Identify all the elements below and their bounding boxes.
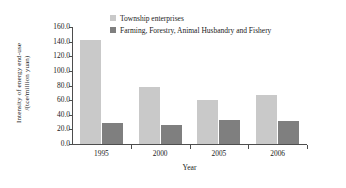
y-axis-tick-label: 0.0	[30, 140, 70, 148]
bar-2000-series-1	[161, 125, 182, 144]
y-axis-tick-label: 40.0	[30, 111, 70, 119]
bar-group-2005	[197, 27, 240, 144]
plot-area	[72, 27, 307, 145]
legend-item-1: Farming, Forestry, Animal Husbandry and …	[110, 25, 271, 35]
x-axis-tick-labels: 1995200020052006	[72, 149, 307, 161]
bar-2006-series-1	[278, 121, 299, 144]
bar-chart: Intensity of energy end-use /(tce/millio…	[0, 0, 346, 188]
x-axis-tick-label-2000: 2000	[138, 149, 182, 158]
bar-group-2000	[139, 27, 182, 144]
legend-swatch-icon	[110, 27, 116, 33]
y-axis-tick-mark	[69, 56, 72, 57]
x-axis-tick-label-1995: 1995	[79, 149, 123, 158]
bar-2000-series-0	[139, 87, 160, 144]
y-axis-tick-mark	[69, 144, 72, 145]
y-axis-tick-mark	[69, 71, 72, 72]
bar-2005-series-0	[197, 100, 218, 144]
y-axis-tick-mark	[69, 100, 72, 101]
bar-2006-series-0	[256, 95, 277, 144]
legend-label: Farming, Forestry, Animal Husbandry and …	[120, 26, 271, 35]
y-axis-tick-mark	[69, 129, 72, 130]
y-axis-tick-label: 140.0	[30, 38, 70, 46]
bar-1995-series-1	[102, 123, 123, 144]
y-axis-tick-mark	[69, 115, 72, 116]
legend-label: Township enterprises	[120, 14, 184, 23]
y-axis-tick-label: 100.0	[30, 67, 70, 75]
y-axis-tick-label: 80.0	[30, 82, 70, 90]
chart-legend: Township enterprisesFarming, Forestry, A…	[110, 13, 271, 35]
bar-group-2006	[256, 27, 299, 144]
y-axis-tick-mark	[69, 86, 72, 87]
y-axis-tick-labels: 160.0140.0120.0100.080.060.040.020.00.0	[30, 22, 70, 146]
bar-group-1995	[80, 27, 123, 144]
bar-1995-series-0	[80, 40, 101, 144]
y-axis-line	[72, 27, 73, 145]
y-axis-tick-label: 20.0	[30, 125, 70, 133]
y-axis-tick-mark	[69, 42, 72, 43]
legend-swatch-icon	[110, 15, 116, 21]
x-axis-title: Year	[72, 163, 307, 172]
x-axis-tick-label-2006: 2006	[256, 149, 300, 158]
y-axis-tick-label: 60.0	[30, 96, 70, 104]
legend-item-0: Township enterprises	[110, 13, 271, 23]
y-axis-tick-label: 160.0	[30, 23, 70, 31]
y-axis-tick-mark	[69, 27, 72, 28]
x-axis-tick-mark	[307, 145, 308, 149]
y-axis-tick-label: 120.0	[30, 52, 70, 60]
x-axis-tick-label-2005: 2005	[197, 149, 241, 158]
bar-2005-series-1	[219, 120, 240, 144]
